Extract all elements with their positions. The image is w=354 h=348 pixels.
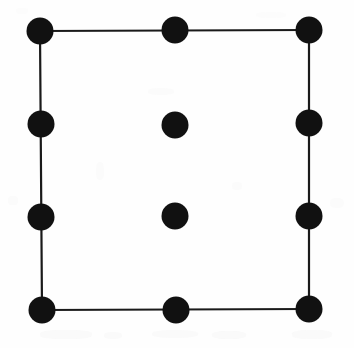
edge-right-lower-dot: [296, 203, 323, 230]
interior-upper-dot: [162, 112, 189, 139]
edge-left-upper-dot: [28, 111, 55, 138]
corner-bottom-right-dot: [296, 296, 323, 323]
edge-right-upper-dot: [296, 110, 323, 137]
figure-canvas: [0, 0, 354, 348]
edge-layer: [40, 30, 309, 310]
edge-top-mid-dot: [162, 17, 189, 44]
edge-left-lower-dot: [28, 204, 55, 231]
corner-top-left-dot: [27, 18, 54, 45]
corner-bottom-left-dot: [29, 297, 56, 324]
corner-top-right-dot: [296, 17, 323, 44]
node-layer: [27, 17, 323, 324]
interior-lower-dot: [162, 203, 189, 230]
edge-left: [40, 31, 42, 310]
dot-lattice-diagram: [0, 0, 354, 348]
edge-bottom-mid-dot: [163, 297, 190, 324]
